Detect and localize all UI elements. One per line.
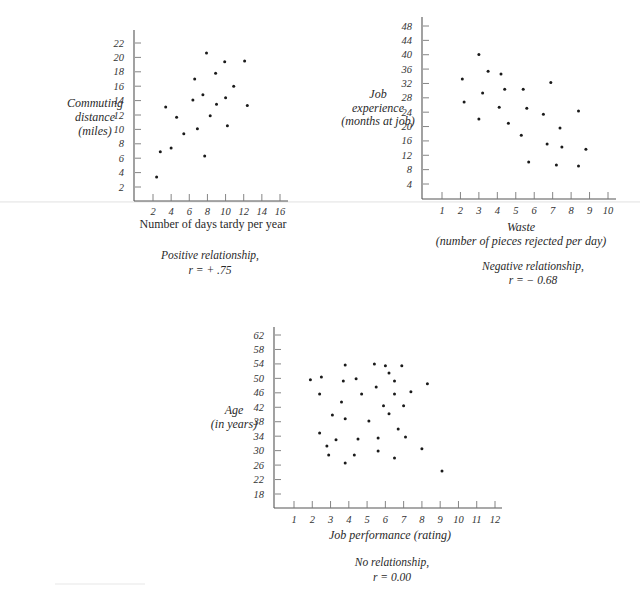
data-point [246,104,249,107]
y-tick-label: 22 [114,38,125,49]
y-tick-label: 18 [114,66,125,77]
x-tick-label: 10 [603,205,614,216]
data-point [487,70,490,73]
data-point [525,107,528,110]
data-point [477,118,480,121]
relationship-caption: No relationship, [354,556,429,569]
faint-footer-text [55,583,145,585]
x-tick-label: 1 [291,514,296,525]
data-point [382,404,385,407]
data-point [503,88,506,91]
y-tick-label: 4 [407,179,413,190]
data-point [224,96,227,99]
data-point [373,362,376,365]
data-point [223,60,226,63]
data-point [203,155,206,158]
x-tick-label: 5 [513,205,518,216]
data-point [397,428,400,431]
y-axis-title: Commuting [67,96,123,110]
x-tick-label: 10 [453,514,464,525]
data-point [215,103,218,106]
x-tick-label: 11 [472,514,482,525]
y-tick-label: 2 [119,182,125,193]
x-axis-subtitle: (number of pieces rejected per day) [436,234,607,248]
y-tick-label: 30 [253,445,265,456]
data-point [191,98,194,101]
y-tick-label: 40 [402,49,413,60]
x-tick-label: 9 [587,205,593,216]
y-axis-title: (in years) [211,417,257,431]
y-tick-label: 42 [254,402,265,413]
x-tick-label: 6 [187,206,193,217]
y-tick-label: 16 [402,135,413,146]
data-point [393,392,396,395]
data-point [243,60,246,63]
data-point [559,127,562,130]
data-point [555,164,558,167]
data-point [320,375,323,378]
x-tick-label: 3 [327,514,333,525]
x-tick-label: 16 [275,206,286,217]
data-point [325,444,328,447]
x-tick-label: 8 [205,206,211,217]
y-axis-title: (months at job) [341,114,414,128]
x-axis-title: Job performance (rating) [329,528,451,542]
y-tick-label: 10 [114,124,125,135]
data-point [193,78,196,81]
x-tick-label: 14 [257,206,268,217]
y-tick-label: 62 [254,330,265,341]
y-tick-label: 44 [402,35,413,46]
data-point [214,72,217,75]
data-point [355,377,358,380]
data-point [388,371,391,374]
x-tick-label: 10 [220,206,231,217]
data-point [159,150,162,153]
x-tick-label: 2 [150,206,156,217]
y-tick-label: 18 [254,489,265,500]
data-point [196,127,199,130]
data-point [584,148,587,151]
data-point [577,110,580,113]
y-tick-label: 12 [114,110,125,121]
x-tick-label: 4 [346,514,352,525]
data-point [327,454,330,457]
data-point [393,379,396,382]
data-point [498,106,501,109]
y-tick-label: 12 [402,150,413,161]
data-point [463,101,466,104]
data-point [182,132,185,135]
data-point [335,438,338,441]
x-tick-label: 7 [550,205,556,216]
chart-positive-relationship: 246810121416246810121416182022Commutingd… [67,30,288,276]
chart-negative-relationship: 123456789104812162024283236404448Jobexpe… [341,17,616,286]
data-point [577,165,580,168]
data-point [377,437,380,440]
x-tick-label: 2 [458,205,464,216]
correlation-value: r = + .75 [189,264,232,276]
data-point [549,81,552,84]
data-point [377,450,380,453]
x-tick-label: 5 [364,514,369,525]
data-point [209,114,212,117]
x-tick-label: 12 [490,514,501,525]
data-point [384,364,387,367]
relationship-caption: Negative relationship, [481,260,584,273]
data-point [402,404,405,407]
data-point [353,454,356,457]
x-tick-label: 3 [475,205,481,216]
x-tick-label: 2 [310,514,316,525]
relationship-caption: Positive relationship, [160,249,259,262]
data-point [318,392,321,395]
data-point [441,469,444,472]
chart-no-relationship: 123456789101112182226303438424650545862A… [211,327,502,583]
data-point [344,461,347,464]
data-point [360,392,363,395]
data-point [400,364,403,367]
x-tick-label: 4 [169,206,175,217]
x-tick-label: 7 [401,514,407,525]
data-point [309,378,312,381]
x-tick-label: 8 [419,514,425,525]
data-point [477,53,480,56]
y-tick-label: 22 [254,474,265,485]
y-axis-title: (miles) [78,124,111,138]
